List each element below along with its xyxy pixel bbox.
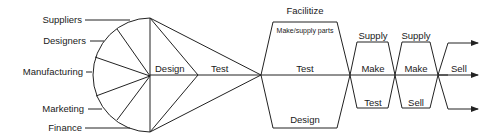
label-finance: Finance <box>48 123 82 133</box>
label-funnel-design: Design <box>155 64 185 74</box>
label-facilitize: Facilitize <box>287 6 324 16</box>
label-stage1-test: Test <box>296 64 313 74</box>
output-arrow-bottom <box>438 75 478 109</box>
label-stage2-test: Test <box>364 98 381 108</box>
label-manufacturing: Manufacturing <box>23 67 83 77</box>
label-stage2-supply: Supply <box>358 31 387 41</box>
label-stage3-make: Make <box>404 64 427 74</box>
label-stage1-design: Design <box>290 115 320 125</box>
label-stage3-supply: Supply <box>401 31 430 41</box>
label-designers: Designers <box>43 36 86 46</box>
label-stage3-sell: Sell <box>408 98 424 108</box>
label-marketing: Marketing <box>42 104 84 114</box>
label-stage2-make: Make <box>361 64 384 74</box>
concurrent-engineering-diagram: Suppliers Designers Manufacturing Market… <box>0 0 497 138</box>
label-output-sell: Sell <box>451 64 467 74</box>
label-suppliers: Suppliers <box>42 15 82 25</box>
label-make-supply-parts: Make/supply parts <box>277 27 334 34</box>
label-funnel-test: Test <box>211 64 228 74</box>
